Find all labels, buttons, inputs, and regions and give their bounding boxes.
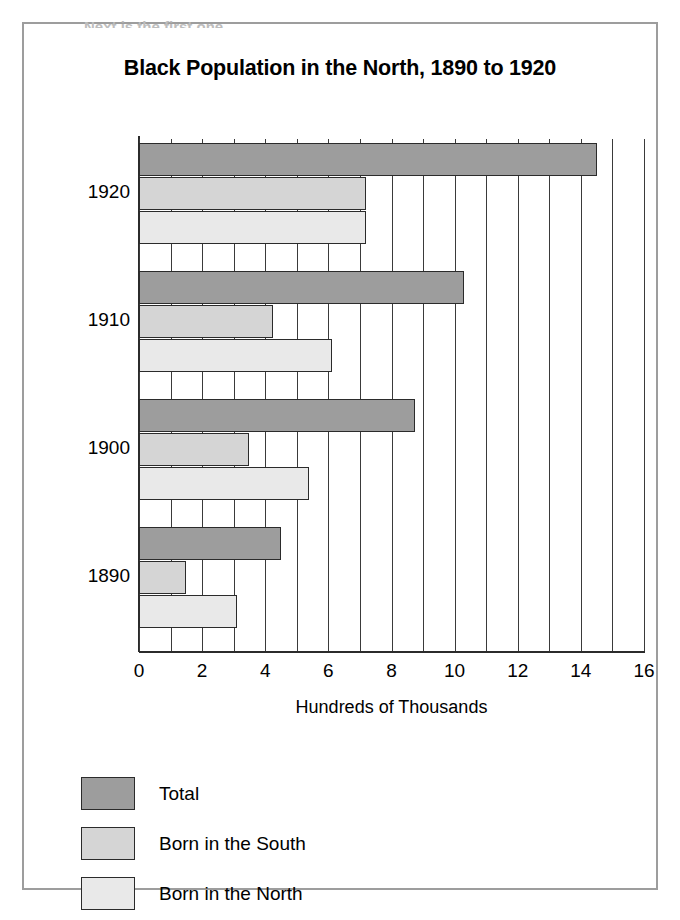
x-tick-6: 6: [308, 660, 348, 682]
bar-1910-south: [139, 305, 273, 338]
gridline: [549, 139, 550, 651]
bar-1890-north: [139, 595, 237, 628]
x-tick-10: 10: [435, 660, 475, 682]
gridline: [644, 139, 645, 651]
bar-1900-north: [139, 467, 309, 500]
x-axis-line: [139, 651, 645, 653]
x-tick-2: 2: [182, 660, 222, 682]
legend-item-north: Born in the North: [81, 872, 306, 915]
x-tick-4: 4: [245, 660, 285, 682]
bar-1900-south: [139, 433, 249, 466]
legend-label-south: Born in the South: [159, 833, 306, 855]
bar-1890-total: [139, 527, 281, 560]
legend-swatch-north: [81, 877, 135, 910]
legend-swatch-south: [81, 827, 135, 860]
plot-area: [139, 139, 644, 651]
gridline: [486, 139, 487, 651]
y-axis-label-1900: 1900: [52, 437, 130, 459]
figure-frame: Next is the first one, Black Population …: [22, 22, 658, 890]
x-tick-8: 8: [372, 660, 412, 682]
x-tick-12: 12: [498, 660, 538, 682]
legend-label-total: Total: [159, 783, 199, 805]
chart-title: Black Population in the North, 1890 to 1…: [24, 56, 656, 81]
bar-1920-total: [139, 143, 597, 176]
x-tick-0: 0: [119, 660, 159, 682]
bar-1900-total: [139, 399, 415, 432]
bar-1910-north: [139, 339, 332, 372]
legend-swatch-total: [81, 777, 135, 810]
x-axis-title: Hundreds of Thousands: [139, 697, 644, 718]
x-tick-14: 14: [561, 660, 601, 682]
gridline: [455, 139, 456, 651]
page-top-text-fragment: Next is the first one,: [84, 18, 227, 28]
gridline: [518, 139, 519, 651]
gridline: [581, 139, 582, 651]
gridline: [612, 139, 613, 651]
gridline: [392, 139, 393, 651]
bar-1920-north: [139, 211, 366, 244]
legend-item-south: Born in the South: [81, 822, 306, 865]
gridline: [423, 139, 424, 651]
legend-item-total: Total: [81, 772, 306, 815]
chart-legend: TotalBorn in the SouthBorn in the North: [81, 772, 306, 920]
x-tick-16: 16: [624, 660, 664, 682]
bar-1920-south: [139, 177, 366, 210]
legend-label-north: Born in the North: [159, 883, 303, 905]
y-axis-label-1890: 1890: [52, 565, 130, 587]
bar-1910-total: [139, 271, 464, 304]
y-axis-label-1910: 1910: [52, 309, 130, 331]
bar-1890-south: [139, 561, 186, 594]
y-axis-label-1920: 1920: [52, 181, 130, 203]
